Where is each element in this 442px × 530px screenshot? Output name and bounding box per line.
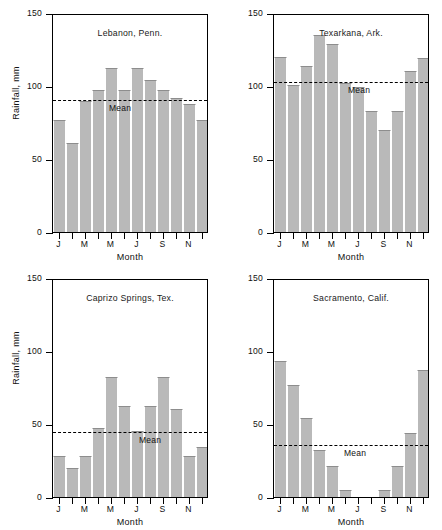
x-axis-tick-label: S	[156, 239, 170, 249]
x-axis-tick	[202, 498, 203, 504]
y-axis-tick-label: 0	[237, 227, 263, 237]
panel-title: Sacramento, Calif.	[313, 293, 389, 303]
bar-o-9	[391, 466, 404, 497]
y-axis-tick-label: 0	[237, 492, 263, 502]
mean-line-label: Mean	[109, 103, 131, 113]
bar-m-2	[79, 101, 92, 232]
x-axis-tick	[176, 233, 177, 239]
chart-panel-caprizo-springs: 050100150Rainfall, mmMeanCaprizo Springs…	[0, 265, 221, 530]
x-axis-tick	[423, 233, 424, 239]
x-axis-tick	[423, 498, 424, 504]
bar-m-4	[105, 377, 118, 497]
bar-m-2	[300, 418, 313, 497]
plot-area: Mean	[52, 279, 208, 498]
bar-a-3	[92, 428, 105, 497]
bar-m-4	[105, 68, 118, 232]
bar-d-11	[196, 120, 208, 232]
x-axis-tick-label: J	[351, 239, 365, 249]
x-axis-tick-label: N	[403, 504, 417, 514]
x-axis-tick-label: J	[52, 504, 66, 514]
mean-line	[274, 445, 428, 446]
x-axis-tick-label: M	[104, 239, 118, 249]
mean-line-label: Mean	[348, 85, 370, 95]
bar-j-6	[131, 68, 144, 232]
x-axis-tick	[397, 498, 398, 504]
x-axis-tick-label: M	[299, 239, 313, 249]
chart-panel-sacramento: 050100150MeanSacramento, Calif.JMMJSNMon…	[221, 265, 442, 530]
mean-line	[53, 432, 207, 433]
x-axis-tick	[98, 498, 99, 504]
bar-n-10	[404, 433, 417, 497]
x-axis-tick-label: J	[130, 239, 144, 249]
y-axis-tick	[46, 233, 53, 234]
bar-s-8	[378, 490, 391, 497]
y-axis-title: Rainfall, mm	[11, 308, 21, 408]
x-axis-tick-label: M	[78, 239, 92, 249]
mean-line-label: Mean	[139, 435, 161, 445]
bar-m-2	[79, 456, 92, 497]
bar-j-0	[274, 361, 287, 497]
x-axis-tick-label: N	[182, 239, 196, 249]
y-axis-tick-label: 100	[237, 81, 263, 91]
bar-n-10	[404, 71, 417, 232]
y-axis-tick	[267, 498, 274, 499]
x-axis-tick	[371, 233, 372, 239]
x-axis-tick	[293, 233, 294, 239]
bar-a-3	[313, 450, 326, 497]
mean-line	[53, 100, 207, 101]
x-axis-tick	[371, 498, 372, 504]
x-axis-tick	[72, 498, 73, 504]
bar-j-6	[352, 87, 365, 232]
x-axis-tick-label: J	[52, 239, 66, 249]
x-axis-tick	[150, 233, 151, 239]
y-axis-tick-label: 50	[237, 154, 263, 164]
x-axis-tick-label: N	[403, 239, 417, 249]
plot-area: Mean	[273, 279, 429, 498]
y-axis-tick	[46, 498, 53, 499]
x-axis-tick-label: S	[377, 239, 391, 249]
bar-a-7	[144, 80, 157, 232]
x-axis-tick	[345, 498, 346, 504]
x-axis-title: Month	[52, 517, 208, 527]
chart-panel-lebanon: 050100150Rainfall, mmMeanLebanon, Penn.J…	[0, 0, 221, 265]
plot-area: Mean	[273, 14, 429, 233]
mean-line-label: Mean	[344, 448, 366, 458]
x-axis-tick	[150, 498, 151, 504]
panel-title: Lebanon, Penn.	[98, 28, 163, 38]
mean-line	[274, 82, 428, 83]
bar-j-5	[339, 83, 352, 232]
y-axis-tick-label: 150	[237, 8, 263, 18]
rainfall-multi-panel-figure: 050100150Rainfall, mmMeanLebanon, Penn.J…	[0, 0, 442, 530]
bar-j-0	[53, 456, 66, 497]
bar-f-1	[66, 468, 79, 497]
x-axis-tick	[397, 233, 398, 239]
x-axis-tick-label: J	[273, 504, 287, 514]
x-axis-tick	[176, 498, 177, 504]
y-axis-tick-label: 150	[16, 8, 42, 18]
bar-n-10	[183, 104, 196, 232]
x-axis-tick	[124, 498, 125, 504]
y-axis-tick-label: 150	[16, 273, 42, 283]
x-axis-tick-label: M	[325, 239, 339, 249]
plot-area: Mean	[52, 14, 208, 233]
bar-o-9	[170, 98, 183, 232]
bar-j-5	[118, 406, 131, 497]
x-axis-tick	[72, 233, 73, 239]
bar-f-1	[287, 385, 300, 497]
bar-a-7	[365, 111, 378, 232]
bar-o-9	[170, 409, 183, 497]
x-axis-tick-label: M	[78, 504, 92, 514]
y-axis-tick-label: 100	[237, 346, 263, 356]
x-axis-tick-label: M	[299, 504, 313, 514]
bar-n-10	[183, 456, 196, 497]
bar-s-8	[378, 130, 391, 232]
y-axis-tick-label: 50	[16, 419, 42, 429]
chart-panel-texarkana: 050100150MeanTexarkana, Ark.JMMJSNMonth	[221, 0, 442, 265]
bar-m-4	[326, 466, 339, 497]
x-axis-tick-label: J	[273, 239, 287, 249]
x-axis-tick	[124, 233, 125, 239]
x-axis-title: Month	[52, 252, 208, 262]
panel-title: Caprizo Springs, Tex.	[86, 293, 174, 303]
bar-s-8	[157, 90, 170, 232]
bar-j-0	[53, 120, 66, 232]
